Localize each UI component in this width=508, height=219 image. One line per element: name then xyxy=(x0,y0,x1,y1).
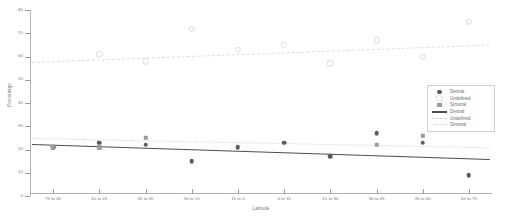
x-tick-mark xyxy=(146,189,147,194)
x-tick-mark xyxy=(99,189,100,194)
y-tick-mark xyxy=(25,80,30,81)
data-point-undefined xyxy=(281,42,287,48)
data-point-undefined xyxy=(142,58,148,64)
data-point-undefined xyxy=(373,37,379,43)
x-tick-label: 45 to 60 xyxy=(415,196,431,201)
data-point-dextral xyxy=(420,140,425,145)
legend-item: Dextral xyxy=(431,108,491,115)
x-tick-mark xyxy=(238,189,239,194)
legend-solid-line-icon xyxy=(432,111,447,113)
y-axis-line xyxy=(30,10,31,196)
x-tick-label: 60 to 75 xyxy=(461,196,477,201)
y-tick-mark xyxy=(25,173,30,174)
x-tick-mark xyxy=(377,189,378,194)
y-tick-label: 50 xyxy=(3,77,23,81)
legend-label: Dextral xyxy=(448,109,464,114)
y-tick-mark xyxy=(25,196,30,197)
legend-dotted-line-icon xyxy=(432,124,447,125)
y-tick-label: 60 xyxy=(3,54,23,58)
legend-key xyxy=(431,95,448,101)
data-point-undefined xyxy=(96,51,102,57)
y-tick-label: 0 xyxy=(3,194,23,198)
chart-legend: DextralUndefinedSinistralDextralUndefine… xyxy=(427,85,495,132)
data-point-sinistral xyxy=(51,145,55,149)
x-tick-mark xyxy=(192,189,193,194)
y-tick-label: 30 xyxy=(3,124,23,128)
legend-label: Sinistral xyxy=(448,102,466,107)
legend-item: Sinistral xyxy=(431,121,491,128)
data-point-sinistral xyxy=(420,133,424,137)
y-tick-mark xyxy=(25,126,30,127)
legend-key xyxy=(431,118,448,119)
y-tick-mark xyxy=(25,57,30,58)
data-point-dextral xyxy=(282,140,287,145)
legend-open-circle-icon xyxy=(436,95,442,101)
y-tick-label: 80 xyxy=(3,8,23,12)
legend-key xyxy=(431,124,448,125)
data-point-dextral xyxy=(236,145,241,150)
legend-square-icon xyxy=(437,103,441,107)
data-point-dextral xyxy=(467,173,472,178)
data-point-undefined xyxy=(235,46,241,52)
x-tick-label: 45 to 30 xyxy=(138,196,154,201)
x-tick-mark xyxy=(330,189,331,194)
x-tick-mark xyxy=(284,189,285,194)
y-tick-mark xyxy=(25,33,30,34)
legend-label: Undefined xyxy=(448,96,471,101)
x-tick-mark xyxy=(53,189,54,194)
y-tick-label: 10 xyxy=(3,170,23,174)
y-tick-label: 20 xyxy=(3,147,23,151)
legend-label: Sinistral xyxy=(448,122,466,127)
data-point-undefined xyxy=(327,60,333,66)
x-tick-label: 30 to 15 xyxy=(184,196,200,201)
data-point-dextral xyxy=(143,143,148,148)
data-point-dextral xyxy=(189,159,194,164)
x-tick-label: 75 to 60 xyxy=(45,196,61,201)
y-tick-label: 70 xyxy=(3,31,23,35)
y-tick-mark xyxy=(25,10,30,11)
legend-label: Dextral xyxy=(448,89,464,94)
legend-label: Undefined xyxy=(448,116,471,121)
legend-item: Sinistral xyxy=(431,102,491,109)
legend-item: Undefined xyxy=(431,95,491,102)
legend-item: Undefined xyxy=(431,115,491,122)
data-point-sinistral xyxy=(97,145,101,149)
x-tick-label: 60 to 45 xyxy=(91,196,107,201)
data-point-undefined xyxy=(188,25,194,31)
x-tick-mark xyxy=(423,189,424,194)
legend-filled-circle-icon xyxy=(437,90,442,95)
data-point-dextral xyxy=(374,131,379,136)
x-tick-mark xyxy=(469,189,470,194)
legend-dashed-line-icon xyxy=(432,118,447,119)
legend-item: Dextral xyxy=(431,89,491,96)
legend-key xyxy=(431,103,448,107)
chart-figure: 01020304050607080 75 to 6060 to 4545 to … xyxy=(0,0,508,219)
data-point-undefined xyxy=(466,18,472,24)
data-point-undefined xyxy=(419,53,425,59)
x-tick-label: 15 to 0 xyxy=(231,196,244,201)
y-axis-label: Percentage xyxy=(7,83,12,107)
x-axis-label: Latitude xyxy=(252,206,269,211)
data-point-dextral xyxy=(328,154,333,159)
x-tick-label: 0 to 15 xyxy=(277,196,290,201)
legend-key xyxy=(431,90,448,95)
y-tick-mark xyxy=(25,150,30,151)
x-tick-label: 15 to 30 xyxy=(322,196,338,201)
data-point-sinistral xyxy=(143,136,147,140)
legend-key xyxy=(431,111,448,113)
x-tick-label: 30 to 45 xyxy=(369,196,385,201)
y-tick-mark xyxy=(25,103,30,104)
data-point-sinistral xyxy=(374,143,378,147)
